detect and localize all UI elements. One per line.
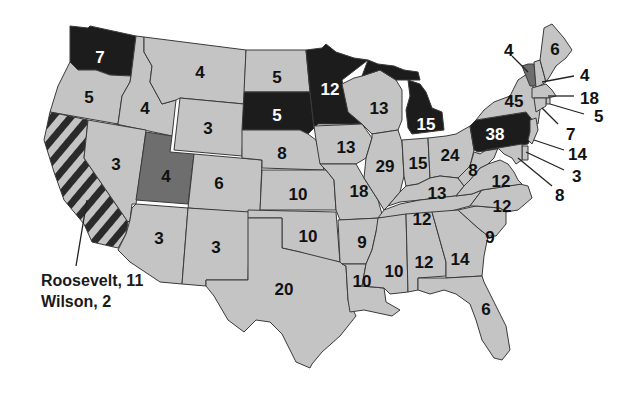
label-IA: 13 bbox=[337, 138, 356, 157]
label-OH: 24 bbox=[441, 146, 460, 165]
label-LA: 10 bbox=[353, 272, 372, 291]
label-UT: 4 bbox=[161, 167, 171, 186]
label-TX: 20 bbox=[275, 280, 294, 299]
state-NJ bbox=[528, 118, 538, 144]
label-MS: 10 bbox=[385, 262, 404, 281]
label-WA: 7 bbox=[95, 48, 104, 67]
label-MI: 15 bbox=[417, 115, 436, 134]
us-electoral-map: 7 5 4 3 4 3 4 6 3 3 5 5 8 10 10 20 12 13… bbox=[0, 0, 633, 396]
california-wilson-votes: Wilson, 2 bbox=[41, 291, 143, 312]
label-AR: 9 bbox=[357, 233, 366, 252]
label-NH: 4 bbox=[580, 66, 590, 85]
label-WY: 3 bbox=[203, 119, 212, 138]
label-GA: 14 bbox=[451, 250, 470, 269]
state-RI bbox=[546, 98, 550, 104]
label-NE: 8 bbox=[277, 144, 286, 163]
label-DE: 3 bbox=[572, 167, 581, 186]
label-IL: 29 bbox=[376, 157, 395, 176]
label-SC: 9 bbox=[485, 228, 494, 247]
label-ID: 4 bbox=[140, 99, 150, 118]
label-NM: 3 bbox=[211, 238, 220, 257]
state-FL bbox=[418, 276, 510, 360]
label-SD: 5 bbox=[272, 106, 281, 125]
state-CO bbox=[188, 154, 262, 214]
label-ME: 6 bbox=[550, 40, 559, 59]
label-NC: 12 bbox=[493, 197, 512, 216]
label-KY: 13 bbox=[428, 184, 447, 203]
label-VA: 12 bbox=[492, 172, 511, 191]
label-RI: 5 bbox=[594, 107, 603, 126]
label-NV: 3 bbox=[111, 155, 120, 174]
label-MA: 18 bbox=[580, 89, 599, 108]
label-FL: 6 bbox=[481, 300, 490, 319]
label-KS: 10 bbox=[289, 185, 308, 204]
label-MD: 8 bbox=[555, 186, 564, 205]
label-MO: 18 bbox=[350, 182, 369, 201]
label-CT: 7 bbox=[566, 125, 575, 144]
label-CO: 6 bbox=[214, 174, 223, 193]
label-MN: 12 bbox=[321, 80, 340, 99]
label-WI: 13 bbox=[370, 99, 389, 118]
label-ND: 5 bbox=[272, 68, 281, 87]
label-NY: 45 bbox=[505, 92, 524, 111]
label-NJ: 14 bbox=[568, 145, 587, 164]
california-roosevelt-votes: Roosevelt, 11 bbox=[41, 270, 143, 291]
california-callout: Roosevelt, 11 Wilson, 2 bbox=[41, 270, 143, 312]
label-IN: 15 bbox=[409, 154, 428, 173]
label-WV: 8 bbox=[468, 161, 477, 180]
label-MT: 4 bbox=[195, 63, 205, 82]
label-PA: 38 bbox=[486, 125, 505, 144]
label-AZ: 3 bbox=[154, 229, 163, 248]
label-VT: 4 bbox=[504, 41, 514, 60]
label-TN: 12 bbox=[413, 210, 432, 229]
label-OK: 10 bbox=[299, 227, 318, 246]
label-AL: 12 bbox=[415, 253, 434, 272]
label-OR: 5 bbox=[84, 88, 93, 107]
